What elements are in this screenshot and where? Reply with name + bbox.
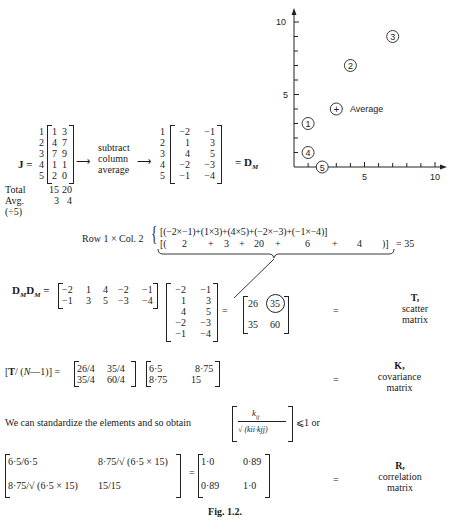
cov-bracket-right	[215, 361, 220, 387]
equals: =	[189, 467, 195, 478]
std-denominator: √ (kii·kjj)	[238, 425, 268, 434]
point-label-4: 4	[306, 148, 311, 158]
scatter-plot: 10 5 5 10 1 2 3 4 5 + Average	[270, 0, 450, 180]
y-tick-10: 10	[276, 17, 286, 27]
row-col-prefix: Row 1 × Col. 2	[82, 233, 143, 244]
scatter-matrix-label: T, scatter matrix	[380, 292, 450, 325]
figure-caption: Fig. 1.2.	[0, 506, 450, 517]
J-bracket-right	[69, 125, 74, 184]
point-label-5: 5	[320, 163, 325, 173]
J-label: J =	[18, 158, 33, 170]
corr-expr-matrix: 6·5/6·5 8·75/√ (6·5 × 15) 8·75/√ (6·5 × …	[8, 456, 178, 496]
total-col1: 15	[49, 184, 59, 195]
equals: =	[333, 474, 339, 485]
arrow-right-icon: ⟶	[76, 156, 90, 167]
avg-col2: 4	[67, 195, 72, 206]
y-tick-5: 5	[283, 90, 288, 100]
cov-frac-bracket-right	[131, 361, 136, 387]
cov-label: [T/ (N—1)] =	[5, 366, 60, 377]
equals: =	[333, 305, 339, 316]
std-bracket-left	[232, 406, 237, 442]
corr-matrix: 1·0 0·89 0·89 1·0	[201, 456, 267, 496]
avg-label: Avg.	[5, 195, 24, 206]
avg-div-label: (÷5)	[5, 206, 22, 217]
total-label: Total	[5, 184, 25, 195]
D2-bracket-right	[213, 283, 218, 342]
point-label-2: 2	[348, 61, 353, 71]
D2-bracket-left	[166, 283, 171, 342]
row-col-line1: [(−2×−1)+(1×3)+(4×5)+(−2×−3)+(−1×−4)]	[160, 226, 327, 237]
D-M-label: = DM	[235, 156, 258, 171]
point-label-3: 3	[390, 32, 395, 42]
correlation-matrix-label: R, correlation matrix	[345, 460, 450, 493]
x-tick-10: 10	[430, 172, 440, 180]
fraction-bar	[238, 421, 286, 422]
std-numerator: kij	[252, 408, 259, 420]
x-tick-5: 5	[362, 172, 367, 180]
average-label: Average	[350, 104, 383, 114]
average-plus-icon: +	[333, 104, 339, 115]
DMDM-label: DMDM =	[12, 284, 49, 299]
avg-col1: 3	[54, 195, 59, 206]
covariance-matrix-label: K, covariance matrix	[352, 360, 447, 393]
equals: =	[333, 374, 339, 385]
highlight-circle	[266, 294, 285, 313]
standardize-text: We can standardize the elements and so o…	[5, 417, 191, 428]
point-label-1: 1	[306, 119, 311, 129]
std-suffix: ⩽1 or	[296, 417, 320, 428]
DT-matrix: −2 1 4 −2 −1 −1 3 5 −3 −4	[60, 285, 156, 307]
subtract-column-average: subtract column average	[98, 142, 130, 175]
D-bracket-right	[217, 125, 222, 184]
curly-brace-left: {	[151, 222, 157, 244]
equals: =	[222, 305, 228, 316]
arrow-right-icon: ⟶	[137, 156, 151, 167]
std-bracket-right	[288, 406, 293, 442]
total-col2: 20	[62, 184, 72, 195]
underbrace-connector	[150, 248, 400, 298]
D-bracket-left	[170, 125, 175, 184]
